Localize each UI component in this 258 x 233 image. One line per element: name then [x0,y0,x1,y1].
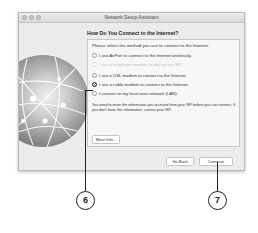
callout-7: 7 [208,191,227,210]
radio-button[interactable] [92,73,97,78]
callout-6: 6 [76,191,95,210]
option-label: I use a DSL modem to connect to the Inte… [99,73,187,78]
option-label: I use a cable modem to connect to the In… [99,82,189,87]
radio-button-selected[interactable] [92,82,97,87]
connection-method-panel: Please select the method you use to conn… [87,39,240,147]
prompt-text: Please select the method you use to conn… [92,43,209,48]
window-title: Network Setup Assistant [19,14,244,20]
radio-button[interactable] [92,53,97,58]
continue-button[interactable]: Continue [199,157,233,166]
option-label: I use AirPort to connect to the Internet… [99,53,192,58]
callout-6-leader [85,90,86,191]
airport-option[interactable]: I use AirPort to connect to the Internet… [92,52,192,58]
network-globe-icon [18,55,89,147]
dsl-modem-option[interactable]: I use a DSL modem to connect to the Inte… [92,72,187,78]
option-label: I connect to my local area network (LAN)… [99,91,178,96]
lan-option[interactable]: I connect to my local area network (LAN)… [92,90,178,96]
telephone-modem-option: I use a telephone modem to dial up my IS… [92,61,182,67]
isp-info-note: You need to enter the information you re… [92,103,237,112]
cable-modem-option[interactable]: I use a cable modem to connect to the In… [92,81,189,87]
network-setup-assistant-window: Network Setup Assistant How Do You Conne… [18,12,245,171]
radio-button [92,62,97,67]
go-back-button[interactable]: Go Back [166,157,194,166]
page-heading: How Do You Connect to the Internet? [87,30,178,36]
callout-7-leader [217,162,218,192]
title-bar: Network Setup Assistant [19,13,244,23]
option-label: I use a telephone modem to dial up my IS… [99,62,182,67]
more-info-button[interactable]: More Info... [92,135,120,144]
